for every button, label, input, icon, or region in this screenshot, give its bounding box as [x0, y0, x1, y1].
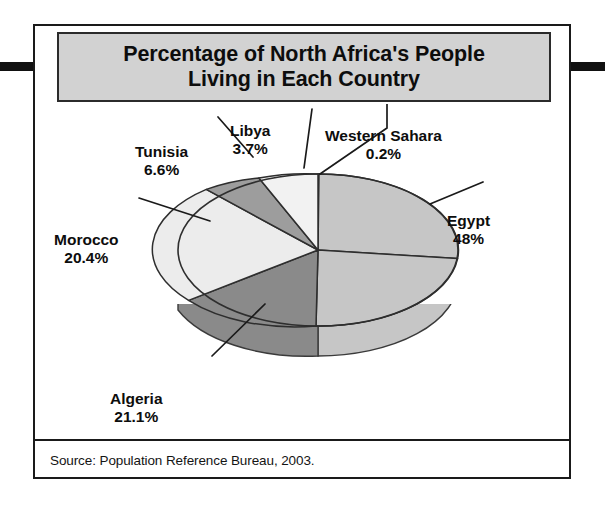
leader-line-egypt [430, 182, 483, 204]
label-egypt-pct: 48% [447, 230, 490, 248]
label-morocco-name: Morocco [54, 231, 119, 249]
label-western-sahara-pct: 0.2% [325, 145, 442, 163]
label-algeria-name: Algeria [110, 390, 163, 408]
label-tunisia-pct: 6.6% [135, 161, 188, 179]
label-algeria-pct: 21.1% [110, 408, 163, 426]
label-libya-name: Libya [230, 122, 270, 140]
label-libya-pct: 3.7% [230, 140, 270, 158]
source-divider [35, 439, 569, 441]
label-egypt-name: Egypt [447, 212, 490, 230]
source-text: Source: Population Reference Bureau, 200… [50, 453, 314, 468]
chart-title-banner: Percentage of North Africa's People Livi… [57, 32, 551, 102]
label-tunisia-name: Tunisia [135, 143, 188, 161]
chart-title-line-1: Percentage of North Africa's People [123, 42, 485, 67]
label-libya: Libya 3.7% [230, 122, 270, 157]
label-western-sahara-name: Western Sahara [325, 127, 442, 145]
figure-frame: Percentage of North Africa's People Livi… [33, 24, 571, 479]
label-algeria: Algeria 21.1% [110, 390, 163, 425]
chart-title-line-2: Living in Each Country [188, 67, 420, 92]
label-egypt: Egypt 48% [447, 212, 490, 247]
pie-slices [152, 174, 458, 327]
pie-slice-egypt [318, 174, 458, 259]
label-morocco: Morocco 20.4% [54, 231, 119, 266]
label-morocco-pct: 20.4% [54, 249, 119, 267]
label-western-sahara: Western Sahara 0.2% [325, 127, 442, 162]
label-tunisia: Tunisia 6.6% [135, 143, 188, 178]
leader-line-libya [304, 109, 312, 168]
